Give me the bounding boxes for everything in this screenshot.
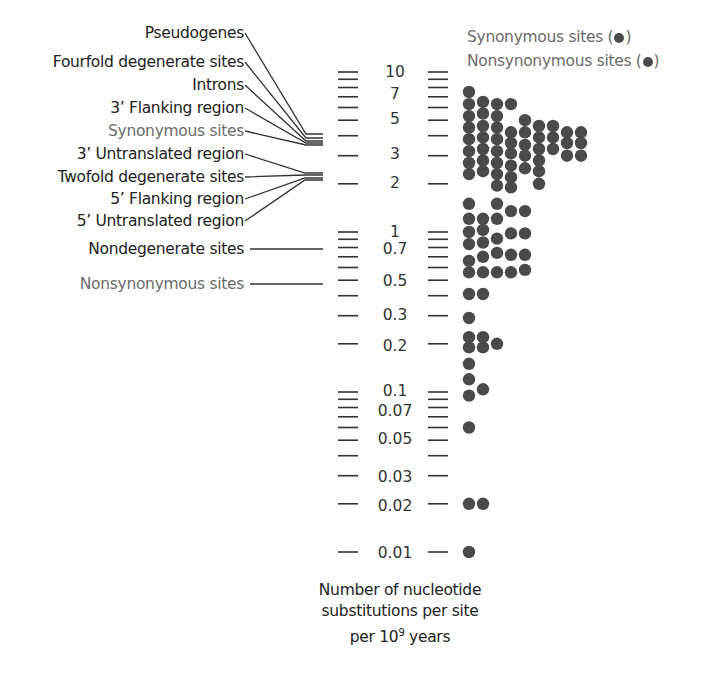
substitution-rate-figure: Pseudogenes Fourfold degenerate sites In…: [0, 0, 712, 673]
axis-ticks-right: [428, 72, 448, 552]
axis-title-years: years: [404, 628, 450, 646]
axis-title-line1: Number of nucleotide: [290, 580, 510, 601]
axis-title-per: per 10: [350, 628, 399, 646]
leader-lines: [245, 33, 323, 284]
axis-title-line2: substitutions per site: [290, 601, 510, 622]
axis-title: Number of nucleotide substitutions per s…: [290, 580, 510, 648]
axis-title-line3: per 109 years: [290, 622, 510, 648]
data-dots: [463, 86, 587, 558]
plot-area: [0, 0, 712, 673]
axis-ticks-left: [338, 72, 358, 552]
